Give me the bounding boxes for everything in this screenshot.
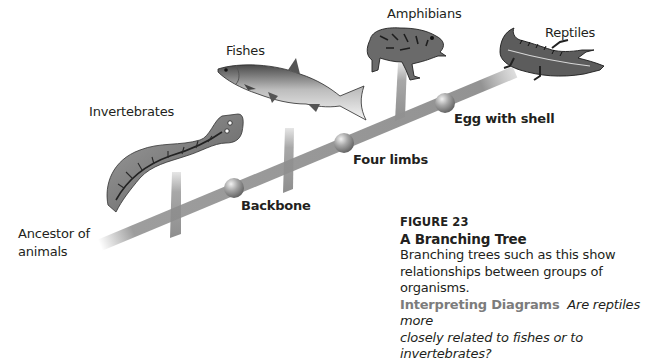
node-four-limbs [334,133,354,153]
skill-label: Interpreting Diagrams [400,297,559,312]
label-reptiles: Reptiles [545,25,595,41]
fish-icon [218,58,366,120]
figure-body-line-2: relationships between groups of organism… [400,264,672,297]
figure-title: A Branching Tree [400,231,672,248]
node-backbone [224,178,244,198]
figure-body-line-1: Branching trees such as this show [400,247,672,264]
node-egg-with-shell [435,93,455,113]
branch-invertebrates [170,172,181,238]
label-amphibians: Amphibians [387,6,462,22]
figure-caption: FIGURE 23 A Branching Tree Branching tre… [400,214,672,362]
label-four-limbs: Four limbs [353,152,428,168]
figure-number: FIGURE 23 [400,214,672,231]
label-fishes: Fishes [226,43,265,59]
question-line-2: closely related to fishes or to inverteb… [400,330,672,362]
figure-body: Branching trees such as this show relati… [400,247,672,297]
figure-question: Interpreting Diagrams Are reptiles more … [400,297,672,362]
label-ancestor-line-1: Ancestor of [18,225,90,243]
label-backbone: Backbone [241,198,311,214]
label-ancestor: Ancestor of animals [18,225,90,261]
frog-icon [367,28,446,80]
label-ancestor-line-2: animals [18,243,90,261]
label-invertebrates: Invertebrates [89,104,174,120]
label-egg-with-shell: Egg with shell [454,111,554,127]
